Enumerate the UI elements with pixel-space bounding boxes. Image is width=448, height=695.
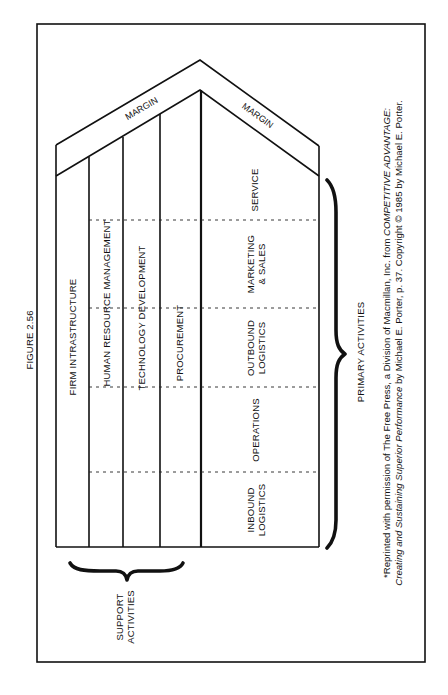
primary-item-outbound-logistics: OUTBOUND LOGISTICS	[245, 320, 267, 376]
support-item-firm-infrastructure: FIRM INTRASTRUCTURE	[67, 279, 78, 396]
figure-label: FIGURE 2.56	[24, 310, 35, 369]
citation-line-2: Creating and Sustaining Superior Perform…	[393, 100, 404, 585]
primary-item-outbound-line1: OUTBOUND	[245, 320, 256, 376]
primary-item-inbound-logistics: INBOUND LOGISTICS	[245, 484, 267, 536]
primary-item-marketing-sales: MARKETING & SALES	[245, 235, 267, 293]
support-activities-label-line1: SUPPORT	[114, 593, 125, 640]
primary-item-inbound-line1: INBOUND	[245, 487, 256, 532]
figure-frame	[37, 24, 425, 662]
margin-outer-edge	[56, 60, 319, 146]
primary-item-marketing-line1: MARKETING	[245, 235, 256, 293]
primary-item-service: SERVICE	[249, 169, 260, 212]
primary-item-marketing-line2: & SALES	[256, 243, 267, 284]
support-brace-icon	[70, 563, 183, 580]
primary-item-outbound-line2: LOGISTICS	[256, 322, 267, 374]
support-item-procurement: PROCUREMENT	[174, 305, 185, 382]
primary-item-operations: OPERATIONS	[250, 398, 261, 462]
support-activities-label-line2: ACTIVITIES	[125, 590, 136, 644]
citation-line-1: *Reprinted with permission of The Free P…	[381, 108, 392, 578]
citation-line-2-suffix: by Michael E. Porter, p. 37. Copyright ©…	[393, 100, 404, 387]
primary-item-inbound-line2: LOGISTICS	[256, 484, 267, 536]
primary-brace-icon	[327, 180, 345, 548]
primary-item-operations-line1: OPERATIONS	[250, 398, 261, 462]
citation-book-title: COMPETITIVE ADVANTAGE:	[381, 108, 392, 236]
citation-line-1-prefix: *Reprinted with permission of The Free P…	[381, 236, 392, 578]
primary-activities-label: PRIMARY ACTIVITIES	[355, 302, 366, 402]
margin-inner-edge	[56, 90, 319, 176]
margin-label-right: MARGIN	[240, 101, 275, 130]
support-item-technology-development: TECHNOLOGY DEVELOPMENT	[136, 245, 147, 390]
citation-book-subtitle: Creating and Sustaining Superior Perform…	[393, 387, 404, 586]
support-item-hr-management: HUMAN RESOURCE MANAGEMENT	[101, 219, 112, 386]
value-chain-figure: FIGURE 2.56 MARGIN MARGIN FIRM INTRASTRU…	[0, 0, 448, 695]
primary-item-service-line1: SERVICE	[249, 169, 260, 212]
